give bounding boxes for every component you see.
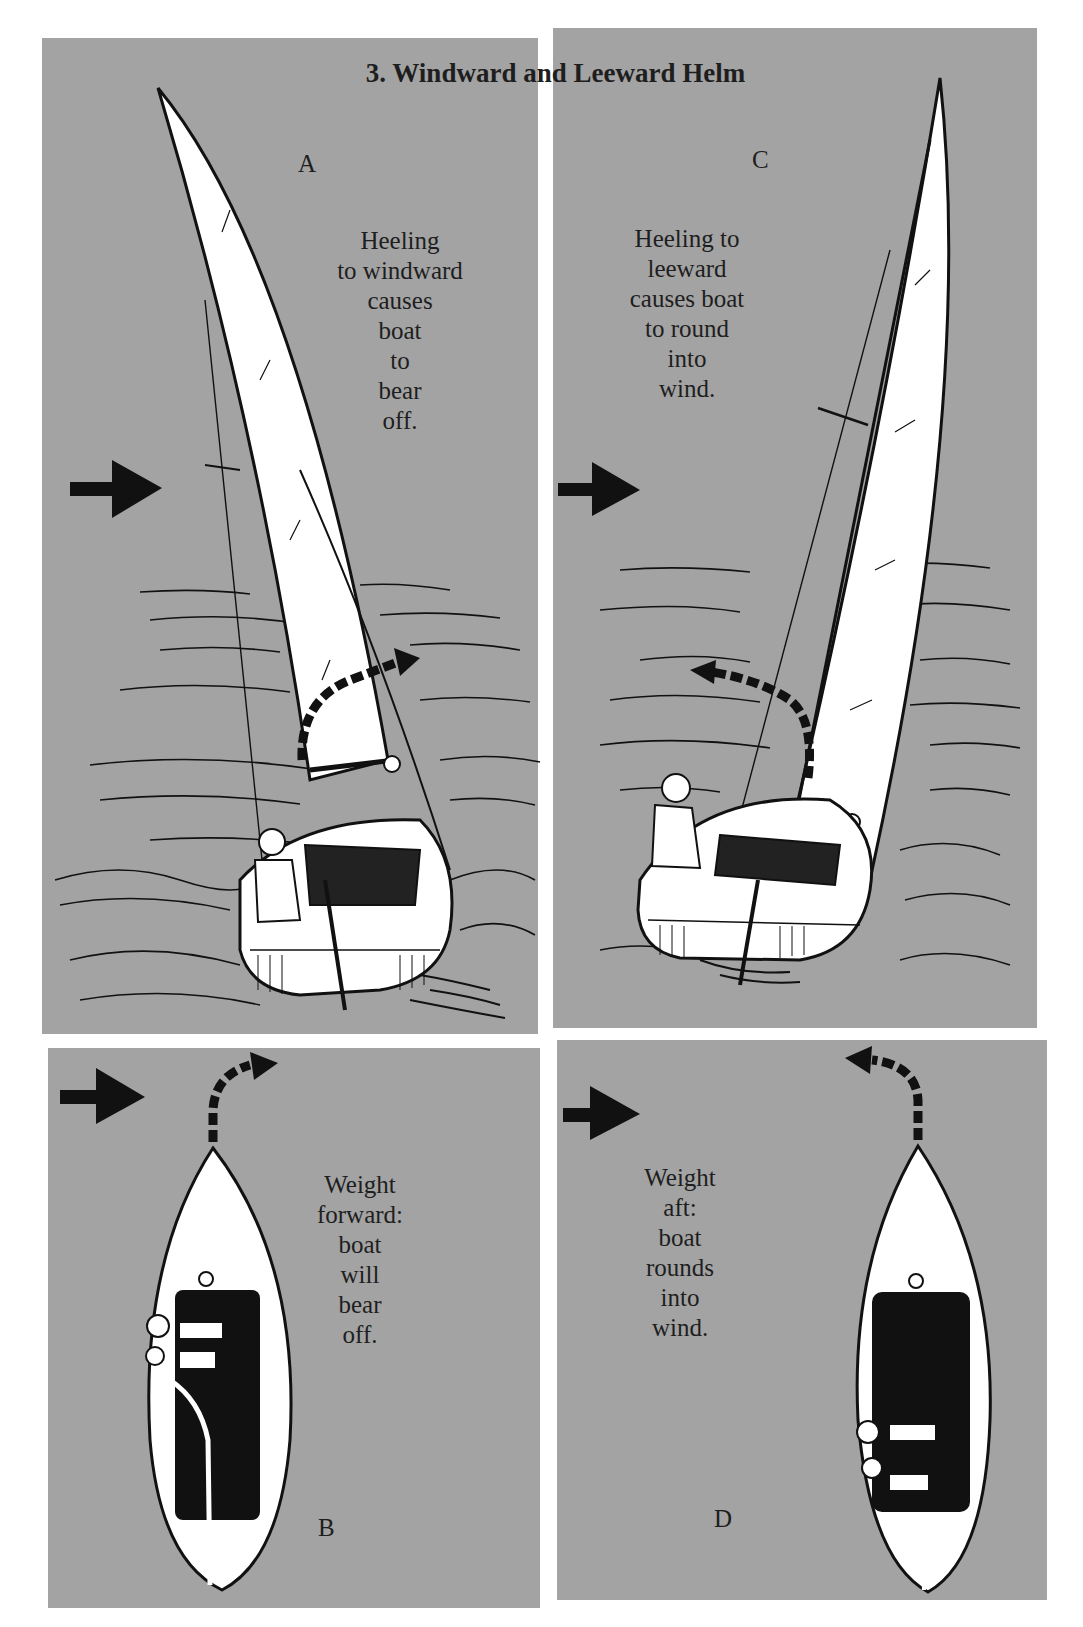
caption-line: wind.: [625, 1313, 735, 1343]
caption-line: causes boat: [612, 284, 762, 314]
panel-a-label: A: [298, 150, 316, 178]
panel-a-caption: Heeling to windward causes boat to bear …: [320, 226, 480, 436]
caption-line: boat: [300, 1230, 420, 1260]
caption-line: Weight: [300, 1170, 420, 1200]
panel-c: [553, 28, 1037, 1028]
caption-line: leeward: [612, 254, 762, 284]
caption-line: into: [612, 344, 762, 374]
caption-line: off.: [300, 1320, 420, 1350]
panel-d-caption: Weight aft: boat rounds into wind.: [625, 1163, 735, 1343]
caption-line: Weight: [625, 1163, 735, 1193]
caption-line: off.: [320, 406, 480, 436]
caption-line: to: [320, 346, 480, 376]
caption-line: bear: [300, 1290, 420, 1320]
caption-line: into: [625, 1283, 735, 1313]
caption-line: will: [300, 1260, 420, 1290]
caption-line: causes: [320, 286, 480, 316]
panel-d-label: D: [714, 1505, 732, 1533]
panel-b-label: B: [318, 1514, 335, 1542]
panel-a: [42, 38, 538, 1034]
panel-c-caption: Heeling to leeward causes boat to round …: [612, 224, 762, 404]
caption-line: to round: [612, 314, 762, 344]
caption-line: bear: [320, 376, 480, 406]
caption-line: rounds: [625, 1253, 735, 1283]
panel-c-label: C: [752, 146, 769, 174]
caption-line: wind.: [612, 374, 762, 404]
caption-line: boat: [625, 1223, 735, 1253]
caption-line: Heeling: [320, 226, 480, 256]
panel-b: [48, 1048, 540, 1608]
caption-line: aft:: [625, 1193, 735, 1223]
caption-line: forward:: [300, 1200, 420, 1230]
figure-title-text: 3. Windward and Leeward Helm: [366, 58, 745, 88]
panel-b-caption: Weight forward: boat will bear off.: [300, 1170, 420, 1350]
caption-line: to windward: [320, 256, 480, 286]
caption-line: boat: [320, 316, 480, 346]
caption-line: Heeling to: [612, 224, 762, 254]
figure-title: 3. Windward and Leeward Helm: [0, 58, 1083, 89]
